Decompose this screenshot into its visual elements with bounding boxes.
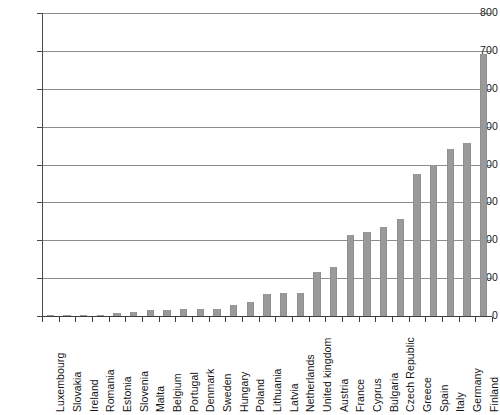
x-category-label: Denmark bbox=[204, 369, 216, 412]
bar bbox=[313, 272, 320, 316]
bar bbox=[47, 315, 54, 316]
x-category-label: Hungary bbox=[238, 372, 250, 412]
bar bbox=[263, 294, 270, 316]
bar bbox=[197, 309, 204, 316]
x-category-label: Finland bbox=[488, 377, 500, 412]
x-category-label: Sweden bbox=[221, 373, 233, 412]
bar bbox=[463, 143, 470, 316]
bar bbox=[363, 232, 370, 316]
x-tick-mark bbox=[492, 317, 493, 322]
bar bbox=[63, 315, 70, 316]
bar bbox=[380, 227, 387, 316]
x-category-label: Luxembourg bbox=[54, 353, 66, 412]
bar bbox=[480, 54, 487, 316]
bar bbox=[130, 312, 137, 316]
x-category-label: Spain bbox=[438, 385, 450, 412]
bar bbox=[80, 315, 87, 316]
chart-plot-area: 0100200300400500600700800 bbox=[0, 0, 498, 340]
bar bbox=[347, 235, 354, 316]
bar bbox=[297, 293, 304, 316]
bar bbox=[163, 310, 170, 316]
x-category-label: Ireland bbox=[88, 379, 100, 412]
bar bbox=[330, 267, 337, 316]
x-category-label: Belgium bbox=[171, 373, 183, 412]
bar bbox=[280, 293, 287, 316]
x-category-label: Greece bbox=[421, 377, 433, 412]
x-category-label: Portugal bbox=[188, 372, 200, 412]
x-category-label: Slovenia bbox=[138, 371, 150, 412]
x-category-label: Cyprus bbox=[371, 378, 383, 412]
bar bbox=[447, 149, 454, 316]
x-category-label: United kingdom bbox=[321, 338, 333, 412]
bar bbox=[213, 309, 220, 316]
bar bbox=[180, 309, 187, 316]
x-category-label: Bulgaria bbox=[388, 373, 400, 412]
x-category-label: Czech Republic bbox=[404, 337, 416, 412]
bar bbox=[97, 315, 104, 316]
bar bbox=[113, 313, 120, 316]
x-category-label: Italy bbox=[454, 392, 466, 412]
x-category-label: Lithuania bbox=[271, 368, 283, 412]
bar bbox=[430, 165, 437, 316]
bar bbox=[247, 302, 254, 316]
x-category-label: Latvia bbox=[288, 383, 300, 412]
x-category-label: Estonia bbox=[121, 376, 133, 412]
bar bbox=[397, 219, 404, 316]
x-axis-category-labels: LuxembourgSlovakiaIrelandRomaniaEstoniaS… bbox=[42, 320, 492, 415]
x-category-label: Netherlands bbox=[304, 354, 316, 412]
x-category-label: Slovakia bbox=[71, 372, 83, 413]
x-category-label: Germany bbox=[471, 368, 483, 412]
x-category-label: Romania bbox=[104, 369, 116, 412]
bar bbox=[230, 305, 237, 316]
bar-series bbox=[42, 13, 492, 316]
x-category-label: France bbox=[354, 379, 366, 412]
bar bbox=[147, 310, 154, 316]
x-category-label: Malta bbox=[154, 386, 166, 412]
bar bbox=[413, 174, 420, 316]
x-category-label: Austria bbox=[338, 379, 350, 412]
x-category-label: Poland bbox=[254, 379, 266, 412]
